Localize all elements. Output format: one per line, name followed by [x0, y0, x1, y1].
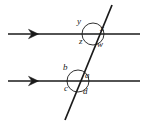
angle-label-z: z	[79, 37, 83, 46]
geometry-figure: y x z w b a c d	[0, 0, 147, 126]
angle-label-d: d	[83, 87, 88, 96]
transversal-line	[65, 5, 112, 120]
parallel-lines-transversal-drawing	[0, 0, 147, 126]
angle-label-a: a	[85, 71, 90, 80]
angle-label-x: x	[100, 24, 104, 33]
angle-label-b: b	[63, 63, 68, 72]
angle-label-w: w	[97, 40, 103, 49]
angle-label-c: c	[64, 84, 68, 93]
angle-label-y: y	[77, 17, 81, 26]
